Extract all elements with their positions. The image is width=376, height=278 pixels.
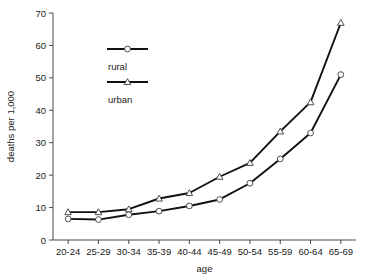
data-point-rural-50-54 [247,180,253,186]
x-tick-label: 40-44 [177,246,201,257]
x-axis-title: age [197,263,213,274]
x-tick-label: 20-24 [56,246,80,257]
x-tick-label: 55-59 [268,246,292,257]
y-axis-title: deaths per 1,000 [5,91,16,162]
y-tick-label: 70 [35,8,46,19]
axes-group [53,13,356,240]
y-tick-label: 30 [35,137,46,148]
chart-canvas: 01020304050607020-2425-2930-3435-3940-44… [0,0,376,278]
data-point-urban-65-69 [338,19,345,25]
x-tick-label: 25-29 [86,246,110,257]
line-chart: 01020304050607020-2425-2930-3435-3940-44… [0,0,376,278]
y-tick-label: 0 [41,235,46,246]
x-tick-label: 35-39 [147,246,171,257]
data-point-rural-30-34 [126,212,132,218]
legend-marker-rural [125,46,131,52]
data-point-rural-60-64 [308,130,314,136]
legend-label-rural: rural [108,61,127,72]
x-tick-label: 60-64 [298,246,322,257]
x-tick-label: 45-49 [207,246,231,257]
data-point-rural-25-29 [96,217,102,223]
y-tick-label: 20 [35,170,46,181]
data-point-rural-35-39 [156,208,162,214]
legend: ruralurban [107,46,148,105]
x-tick-label: 50-54 [238,246,262,257]
data-point-rural-20-24 [65,216,71,222]
series-urban [65,19,344,214]
x-axis-ticks: 20-2425-2930-3435-3940-4445-4950-5455-59… [56,240,353,257]
data-point-rural-55-59 [277,156,283,162]
y-tick-label: 10 [35,202,46,213]
legend-item-rural: rural [107,46,148,72]
legend-label-urban: urban [108,94,132,105]
data-point-rural-45-49 [217,197,223,203]
y-tick-label: 40 [35,105,46,116]
legend-item-urban: urban [107,79,148,105]
y-tick-label: 50 [35,72,46,83]
x-tick-label: 65-69 [329,246,353,257]
data-point-rural-40-44 [186,203,192,209]
y-tick-label: 60 [35,40,46,51]
series-line-urban [68,23,341,212]
y-axis-ticks: 010203040506070 [35,8,53,246]
x-tick-label: 30-34 [117,246,141,257]
data-point-rural-65-69 [338,72,344,78]
data-point-urban-60-64 [307,99,314,105]
